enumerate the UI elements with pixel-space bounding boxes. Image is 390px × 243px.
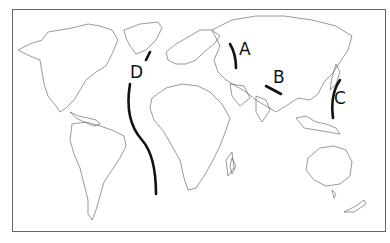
label-a: A: [239, 41, 251, 58]
world-map: [0, 0, 390, 243]
label-b: B: [273, 69, 285, 86]
map-frame: [13, 10, 386, 232]
label-d: D: [130, 64, 143, 81]
label-c: C: [334, 90, 346, 107]
